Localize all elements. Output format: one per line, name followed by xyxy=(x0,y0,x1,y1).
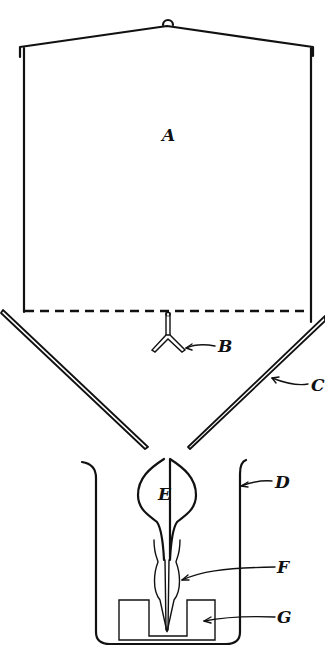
label-c: C xyxy=(311,375,325,395)
lid xyxy=(20,20,313,57)
bulb-e xyxy=(138,459,196,560)
label-a: A xyxy=(160,125,175,145)
label-d: D xyxy=(274,472,290,492)
apparatus-diagram: A B C D E F G xyxy=(0,0,325,651)
label-g: G xyxy=(277,607,292,627)
label-e: E xyxy=(157,484,172,504)
label-f: F xyxy=(276,557,291,577)
chamber-a xyxy=(24,48,312,322)
funnel-walls-c xyxy=(1,310,325,449)
block-g xyxy=(119,600,275,640)
hanger-b xyxy=(152,312,215,352)
label-b: B xyxy=(217,336,232,356)
